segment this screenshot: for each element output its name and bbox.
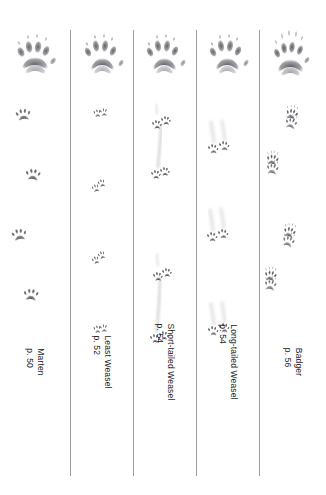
- paw-print-large-long-tailed-weasel: [203, 30, 253, 82]
- page-reference-badger: p. 56: [282, 348, 293, 368]
- track-trail-least-weasel: [71, 108, 133, 358]
- species-name-long-tailed-weasel: Long-tailed Weasel: [228, 324, 239, 399]
- species-label-marten: p. 50 Marten: [0, 351, 70, 481]
- paw-print-large-marten: [10, 30, 60, 82]
- paw-print-large-short-tailed-weasel: [140, 30, 190, 82]
- species-column-least-weasel: p. 52 Least Weasel: [71, 0, 133, 495]
- paw-print-large-least-weasel: [78, 30, 128, 82]
- track-illustration-badger: [260, 0, 326, 360]
- species-column-short-tailed-weasel: p. 54 Short-tailed Weasel: [134, 0, 196, 495]
- track-trail-marten: [0, 105, 70, 355]
- species-name-marten: Marten: [35, 348, 46, 375]
- species-column-badger: p. 56 Badger: [260, 0, 326, 495]
- track-illustration-marten: [0, 0, 70, 360]
- species-label-badger: p. 56 Badger: [260, 351, 326, 481]
- paw-print-large-badger: [266, 30, 318, 84]
- page-reference-short-tailed-weasel: p. 54: [154, 324, 165, 344]
- page-reference-least-weasel: p. 52: [91, 335, 102, 355]
- species-name-short-tailed-weasel: Short-tailed Weasel: [165, 324, 176, 401]
- track-illustration-long-tailed-weasel: [197, 0, 259, 360]
- track-trail-badger: [260, 98, 326, 358]
- species-label-long-tailed-weasel: p. 54 Long-tailed Weasel: [197, 351, 259, 481]
- page-reference-long-tailed-weasel: p. 54: [217, 324, 228, 344]
- species-label-short-tailed-weasel: p. 54 Short-tailed Weasel: [134, 351, 196, 481]
- species-column-marten: p. 50 Marten: [0, 0, 70, 495]
- track-trail-short-tailed-weasel: [134, 105, 196, 360]
- page-reference-marten: p. 50: [24, 348, 35, 368]
- species-label-least-weasel: p. 52 Least Weasel: [71, 351, 133, 481]
- species-name-badger: Badger: [293, 348, 304, 376]
- species-column-long-tailed-weasel: p. 54 Long-tailed Weasel: [197, 0, 259, 495]
- track-illustration-short-tailed-weasel: [134, 0, 196, 360]
- track-plate-page: p. 50 Marten: [0, 0, 326, 495]
- track-illustration-least-weasel: [71, 0, 133, 360]
- species-name-least-weasel: Least Weasel: [102, 335, 113, 388]
